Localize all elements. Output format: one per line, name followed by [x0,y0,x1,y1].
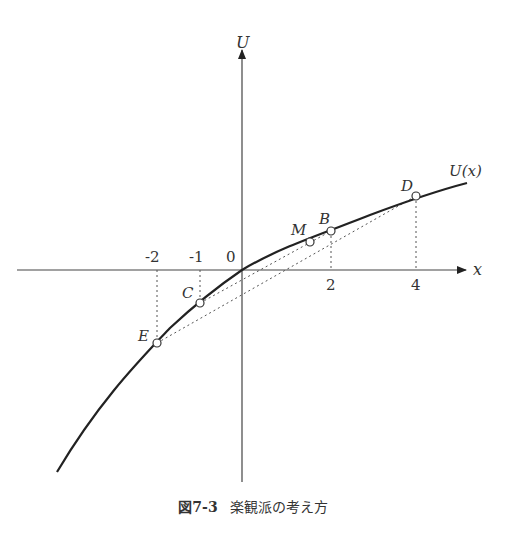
point-C [196,299,204,307]
point-B [327,227,335,235]
utility-curve [57,183,467,472]
origin-label: 0 [226,248,236,266]
curve-label: U(x) [449,162,482,180]
label-M: M [290,221,307,239]
x-tick-2: 2 [326,276,336,294]
x-tick-neg1: -1 [189,248,204,266]
y-axis-label: U [236,33,250,52]
point-D [412,192,420,200]
caption-number: 図7-3 [178,499,217,515]
label-B: B [318,210,330,228]
point-M [306,238,314,246]
point-E [153,339,161,347]
label-C: C [182,284,194,302]
label-E: E [137,327,149,345]
caption-text: 楽観派の考え方 [230,499,328,515]
x-tick-neg2: -2 [145,248,160,266]
label-D: D [400,177,413,195]
x-axis-label: x [473,260,482,279]
x-tick-4: 4 [411,276,421,294]
figure-caption: 図7-3楽観派の考え方 [0,496,506,516]
utility-diagram: U x 0 -2 -1 2 4 U(x) D B M C E [0,0,506,534]
